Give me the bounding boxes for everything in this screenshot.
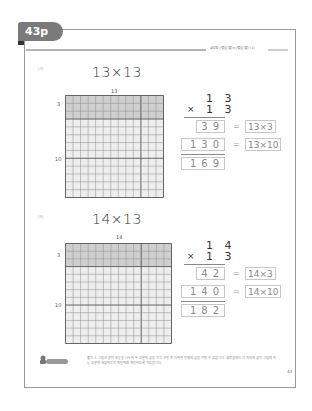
grid-side-label-shaded: 3	[57, 101, 60, 107]
shaded-region	[66, 96, 164, 120]
partial-expression-2: 13×10	[245, 138, 281, 151]
area-model-grid	[65, 95, 164, 198]
multiply-sign: ×	[187, 251, 195, 261]
header-title: 4단원 (몇십 몇)×(몇십 몇) (1)	[210, 45, 255, 50]
multiply-sign: ×	[187, 104, 195, 114]
partial-product-1: 39	[196, 120, 225, 133]
partial-product-2: 140	[181, 285, 225, 298]
problem-number: (4)	[38, 214, 44, 219]
partial-expression-2: 14×10	[245, 285, 281, 298]
multiplier: 1 3	[206, 103, 236, 116]
partial-product-2: 130	[181, 138, 225, 151]
equals-sign: =	[233, 287, 240, 296]
grid-side-label-unshaded: 10	[55, 302, 61, 308]
grid-side-label-unshaded: 10	[55, 156, 61, 162]
area-model-grid	[65, 243, 172, 344]
partial-product-1: 42	[196, 267, 225, 280]
multiplier: 1 3	[206, 250, 236, 263]
final-product: 182	[181, 304, 225, 317]
grid-top-label: 14	[116, 234, 122, 240]
equals-sign: =	[233, 269, 240, 278]
problem-title: 13×13	[92, 64, 142, 80]
header-rule-tail	[268, 49, 288, 51]
sum-rule	[184, 117, 225, 118]
grid-side-label-shaded: 3	[57, 252, 60, 258]
tab-marker	[18, 41, 24, 45]
problem-title: 14×13	[92, 211, 142, 227]
sum-rule	[181, 301, 225, 302]
equals-sign: =	[233, 140, 240, 149]
problem-number: (3)	[38, 66, 44, 71]
teacher-note-text: 풀이 3. 그림과 같이 모눈을 나누어 두 부분의 곱을 각각 구한 후 더하…	[87, 356, 277, 366]
header-rule	[26, 49, 206, 51]
partial-expression-1: 13×3	[245, 120, 276, 133]
teacher-note-icon	[39, 355, 69, 365]
sum-rule	[181, 154, 225, 155]
sum-rule	[184, 264, 225, 265]
grid-top-label: 13	[111, 88, 117, 94]
equals-sign: =	[233, 122, 240, 131]
page-tab: 43p	[18, 22, 63, 41]
final-product: 169	[181, 157, 225, 170]
partial-expression-1: 14×3	[245, 267, 276, 280]
page-number: 43	[287, 369, 292, 374]
